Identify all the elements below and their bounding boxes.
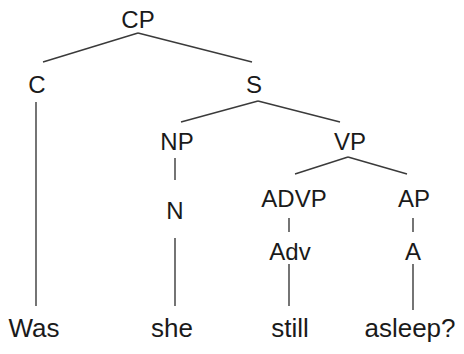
edge-cp-s (138, 33, 252, 62)
node-advp: ADVP (261, 187, 326, 211)
edge-vp-ap (348, 157, 407, 174)
edge-vp-advp (295, 157, 348, 174)
node-a: A (405, 240, 421, 264)
edge-cp-c (43, 33, 138, 62)
node-adv: Adv (269, 240, 310, 264)
node-np: NP (160, 130, 193, 154)
word-still: still (271, 315, 309, 341)
word-asleep: asleep? (364, 315, 455, 341)
node-ap: AP (398, 187, 430, 211)
word-was: Was (8, 315, 59, 341)
node-cp: CP (121, 8, 154, 32)
node-c: C (28, 73, 45, 97)
node-s: S (246, 73, 262, 97)
node-vp: VP (334, 130, 366, 154)
tree-edges (0, 0, 464, 354)
edge-s-vp (258, 101, 340, 122)
word-she: she (151, 315, 193, 341)
edge-s-np (181, 101, 258, 122)
node-n: N (166, 199, 183, 223)
